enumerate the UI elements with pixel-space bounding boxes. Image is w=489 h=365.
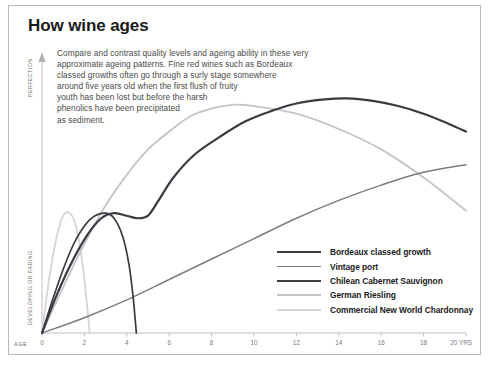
- legend-item-label: German Riesling: [330, 290, 396, 300]
- x-axis-tick-label: 10: [250, 339, 257, 346]
- legend-item-label: Vintage port: [330, 262, 378, 272]
- legend-item-vintage-port[interactable]: Vintage port: [277, 259, 477, 273]
- legend-swatch-icon: [277, 280, 321, 282]
- legend-swatch-icon: [277, 266, 321, 268]
- x-axis-ticks: [42, 333, 466, 337]
- x-axis-tick-label: 4: [125, 339, 129, 346]
- legend-item-bordeaux-classed-growth[interactable]: Bordeaux classed growth: [277, 245, 477, 259]
- x-axis-tick-label: 0: [40, 339, 44, 346]
- legend-swatch-icon: [277, 309, 321, 311]
- x-axis-tick-label: 16: [378, 339, 385, 346]
- legend-item-commercial-new-world-chardonnay[interactable]: Commercial New World Chardonnay: [277, 303, 477, 317]
- legend-swatch-icon: [277, 294, 321, 296]
- x-axis-tick-label: 14: [335, 339, 342, 346]
- legend-item-chilean-cabernet-sauvignon[interactable]: Chilean Cabernet Sauvignon: [277, 274, 477, 288]
- wine-ageing-chart-figure: How wine ages Compare and contrast quali…: [0, 0, 489, 365]
- legend-swatch-icon: [277, 251, 321, 253]
- x-axis-tick-label: 2: [83, 339, 87, 346]
- legend-item-german-riesling[interactable]: German Riesling: [277, 288, 477, 302]
- legend-item-label: Bordeaux classed growth: [330, 247, 431, 257]
- x-axis-tick-label: 12: [293, 339, 300, 346]
- x-axis-tick-label: 20 YRS: [450, 339, 472, 346]
- chart-legend: Bordeaux classed growth Vintage port Chi…: [277, 245, 477, 317]
- x-axis-tick-label: 8: [210, 339, 214, 346]
- legend-item-label: Chilean Cabernet Sauvignon: [330, 276, 443, 286]
- x-axis-tick-label: 18: [420, 339, 427, 346]
- legend-item-label: Commercial New World Chardonnay: [330, 305, 473, 315]
- y-axis-arrow-icon: [38, 52, 45, 62]
- x-axis-tick-label: 6: [167, 339, 171, 346]
